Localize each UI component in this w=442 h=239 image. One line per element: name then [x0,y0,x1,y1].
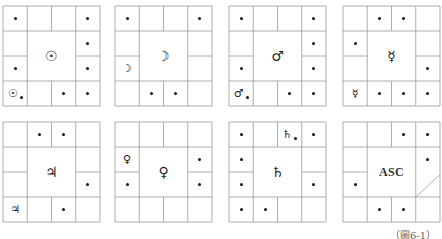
house-cell: ♂ [229,81,253,106]
planet-symbol-icon: ☽ [122,63,132,74]
dot-marker-icon [62,133,65,136]
house-cell [416,56,440,81]
house-cell [188,172,212,197]
center-cell: ♄ [253,147,302,197]
dot-marker-icon [62,208,65,211]
house-cell: ☽ [115,56,139,81]
center-cell: ☽ [139,31,188,81]
dot-marker-icon [312,67,315,70]
house-cell [416,122,440,147]
dot-marker-icon [378,92,381,95]
dot-marker-icon [426,133,429,136]
dot-marker-icon [426,158,429,161]
chart-box-moon: ☽☽ [115,6,212,106]
dot-marker-icon [402,17,405,20]
chart-box-mercury: ☿☿ [343,6,440,106]
house-cell [278,81,302,106]
dot-marker-icon [126,17,129,20]
center-planet-icon: ☿ [387,49,396,63]
center-planet-icon: ♂ [271,49,284,63]
center-cell: ☉ [27,31,76,81]
house-cell [188,147,212,172]
house-cell [367,6,391,31]
center-cell: ♀ [139,147,188,197]
dot-marker-icon [240,208,243,211]
dot-marker-icon [402,208,405,211]
dot-marker-icon [126,183,129,186]
dot-marker-icon [354,42,357,45]
house-cell [253,197,277,222]
planet-symbol-icon: ☿ [352,88,359,99]
house-cell: ♃ [3,197,27,222]
center-planet-icon: ☉ [45,49,58,63]
center-planet-icon: ♀ [158,165,168,179]
dot-marker-icon [312,133,315,136]
dot-marker-icon [198,158,201,161]
planet-symbol-icon: ♂ [234,88,244,99]
house-cell [3,6,27,31]
dot-marker-icon [14,17,17,20]
house-cell [76,81,100,106]
chart-box-saturn: ♄♄ [229,122,326,222]
dot-marker-icon [198,183,201,186]
dot-marker-icon [198,17,201,20]
dot-marker-icon [14,67,17,70]
dot-marker-icon [426,67,429,70]
dot-marker-icon [312,183,315,186]
dot-marker-icon [378,17,381,20]
dot-marker-icon [86,67,89,70]
house-cell [302,81,326,106]
house-cell [416,81,440,106]
house-cell [229,122,253,147]
house-cell [392,197,416,222]
house-cell [76,56,100,81]
house-cell: ☿ [343,81,367,106]
dot-marker-icon [378,208,381,211]
house-cell [302,172,326,197]
center-cell: ♂ [253,31,302,81]
house-cell: ♄ [278,122,302,147]
house-cell [229,197,253,222]
center-cell: ☿ [367,31,416,81]
dot-marker-icon [312,17,315,20]
house-cell: ♀ [115,147,139,172]
house-cell [367,197,391,222]
chart-box-mars: ♂♂ [229,6,326,106]
dot-marker-icon [150,92,153,95]
dot-marker-icon [294,137,297,140]
house-cell [52,122,76,147]
house-cell [302,56,326,81]
dot-marker-icon [174,92,177,95]
dot-marker-icon [38,133,41,136]
chart-box-jupiter: ♃♃ [3,122,100,222]
planet-symbol-icon: ☉ [8,88,18,99]
house-cell [3,56,27,81]
dot-marker-icon [288,92,291,95]
dot-marker-icon [402,133,405,136]
planet-symbol-icon: ♃ [10,204,20,215]
center-planet-icon: ♄ [271,165,284,179]
house-cell [139,81,163,106]
center-cell: ASC [367,147,416,197]
house-cell [229,147,253,172]
house-cell [115,6,139,31]
dot-marker-icon [86,17,89,20]
house-cell [302,122,326,147]
dot-marker-icon [62,92,65,95]
house-cell [367,81,391,106]
figure-caption: （圖6-1） [390,227,436,239]
house-cell [27,122,51,147]
chart-box-ascendant: ASC [343,122,440,222]
house-cell [229,6,253,31]
chart-box-venus: ♀♀ [115,122,212,222]
dot-marker-icon [240,17,243,20]
house-cell [343,31,367,56]
center-planet-icon: ♃ [45,165,58,179]
dot-marker-icon [20,96,23,99]
dot-marker-icon [402,92,405,95]
dot-marker-icon [86,183,89,186]
dot-marker-icon [240,158,243,161]
house-cell [392,122,416,147]
house-cell [343,172,367,197]
house-cell: ☉ [3,81,27,106]
